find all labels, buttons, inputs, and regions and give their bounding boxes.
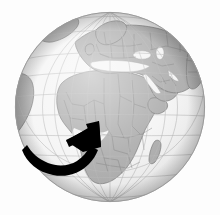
globe-illustration (0, 0, 220, 215)
black-sea (133, 51, 151, 59)
globe-figure: Globe centered on Africa with curved arr… (0, 0, 220, 215)
